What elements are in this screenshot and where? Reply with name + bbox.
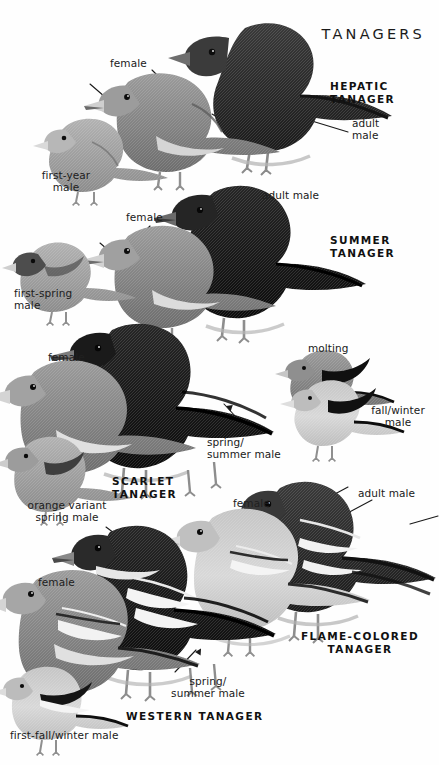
species-name-flame-colored-tanager: FLAME-COLORED TANAGER	[297, 630, 423, 655]
label-flame-female: female	[233, 498, 270, 510]
bird-hepatic-female	[84, 73, 280, 190]
label-western-female: female	[38, 577, 75, 589]
label-summer-first-spring-male: first-spring male	[14, 288, 72, 311]
bird-summer-first-spring-male	[2, 243, 136, 326]
label-flame-adult-male: adult male	[358, 488, 415, 500]
bird-western-spring-summer-male	[52, 526, 276, 701]
species-name-western-tanager: WESTERN TANAGER	[126, 710, 263, 723]
label-hepatic-adult-male: adult male	[352, 118, 379, 141]
label-western-first-fall-winter-male: first-fall/winter male	[10, 730, 118, 742]
label-scarlet-female: female	[48, 352, 85, 364]
label-hepatic-female: female	[110, 58, 147, 70]
label-scarlet-spring-summer-male: spring/ summer male	[207, 437, 281, 460]
bird-summer-adult-male	[154, 186, 366, 343]
label-scarlet-fall-winter-male: fall/winter male	[362, 405, 434, 428]
species-name-hepatic-tanager: HEPATIC TANAGER	[330, 80, 395, 105]
species-name-summer-tanager: SUMMER TANAGER	[330, 234, 395, 259]
label-summer-adult-male: adult male	[262, 190, 319, 202]
bird-scarlet-female	[0, 360, 196, 494]
bird-summer-female	[82, 226, 276, 348]
label-western-spring-summer-male: spring/ summer male	[160, 676, 256, 699]
label-scarlet-molting: molting	[308, 343, 349, 355]
bird-western-first-fall-winter-male	[0, 667, 128, 756]
label-summer-female: female	[126, 212, 163, 224]
field-guide-plate: TANAGERS HEPATIC TANAGER female first-ye…	[0, 0, 439, 765]
label-scarlet-orange-variant-spring-male: orange variant spring male	[17, 500, 117, 523]
species-name-scarlet-tanager: SCARLET TANAGER	[112, 475, 177, 500]
plate-title: TANAGERS	[322, 26, 425, 42]
label-hepatic-first-year-male: first-year male	[28, 170, 104, 193]
